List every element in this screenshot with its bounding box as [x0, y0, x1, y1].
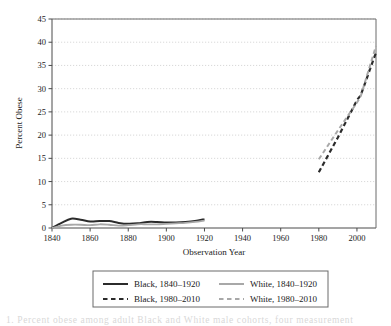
x-tick-label: 1960 [272, 233, 289, 243]
y-tick-label: 15 [38, 153, 47, 163]
x-tick-label: 1880 [120, 233, 137, 243]
y-tick-label: 45 [38, 14, 47, 24]
y-tick-label: 35 [38, 60, 47, 70]
x-axis-tick-labels: 184018601880190019201940196019802000 [44, 233, 366, 243]
legend-label: Black, 1980–2010 [134, 294, 200, 304]
x-tick-label: 1900 [158, 233, 175, 243]
figure-container: 051015202530354045 184018601880190019201… [0, 0, 391, 326]
x-axis-ticks [52, 228, 357, 232]
legend-label: Black, 1840–1920 [134, 279, 200, 289]
x-tick-label: 1840 [44, 233, 61, 243]
y-tick-label: 30 [38, 84, 47, 94]
x-tick-label: 1860 [82, 233, 99, 243]
y-tick-label: 40 [38, 37, 47, 47]
x-tick-label: 1980 [310, 233, 327, 243]
legend-label: White, 1980–2010 [250, 294, 317, 304]
y-axis-tick-labels: 051015202530354045 [38, 14, 47, 233]
legend: Black, 1840–1920White, 1840–1920Black, 1… [93, 271, 328, 307]
y-tick-label: 5 [42, 200, 46, 210]
obesity-trend-chart: 051015202530354045 184018601880190019201… [0, 0, 391, 326]
figure-caption: 1. Percent obese among adult Black and W… [6, 315, 353, 325]
y-tick-label: 25 [38, 107, 47, 117]
y-axis-ticks [49, 19, 53, 228]
y-tick-label: 0 [42, 223, 46, 233]
y-axis-title: Percent Obese [14, 97, 24, 149]
x-tick-label: 1940 [234, 233, 251, 243]
figure-caption-strip: 1. Percent obese among adult Black and W… [0, 313, 391, 326]
x-axis-title: Observation Year [183, 247, 246, 257]
y-tick-label: 10 [38, 177, 47, 187]
y-tick-label: 20 [38, 130, 47, 140]
x-tick-label: 1920 [196, 233, 213, 243]
legend-label: White, 1840–1920 [250, 279, 317, 289]
plot-background [52, 19, 376, 228]
x-tick-label: 2000 [348, 233, 365, 243]
